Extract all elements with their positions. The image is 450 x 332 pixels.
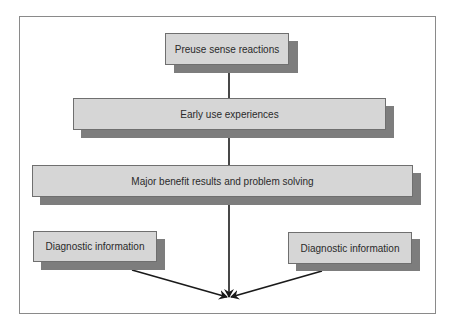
arrow-diag-right-to-convergence — [231, 271, 322, 297]
node-box: Diagnostic information — [288, 232, 412, 264]
node-label: Major benefit results and problem solvin… — [131, 176, 313, 187]
node-box: Diagnostic information — [33, 231, 157, 262]
node-label: Preuse sense reactions — [175, 44, 280, 55]
arrow-diag-left-to-convergence — [132, 270, 227, 297]
node-label: Diagnostic information — [301, 243, 400, 254]
node-label: Early use experiences — [180, 109, 278, 120]
node-box: Preuse sense reactions — [165, 33, 289, 65]
node-box: Major benefit results and problem solvin… — [32, 165, 413, 197]
node-label: Diagnostic information — [46, 241, 145, 252]
node-box: Early use experiences — [73, 98, 386, 130]
